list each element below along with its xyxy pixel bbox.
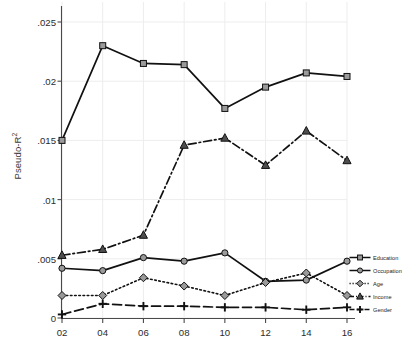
x-tick-label: 10 — [220, 327, 231, 338]
legend-label: Age — [373, 281, 383, 287]
x-tick-label: 16 — [342, 327, 353, 338]
legend-marker-diamond-icon — [349, 278, 371, 289]
y-axis-title: Pseudo-R2 — [11, 101, 23, 211]
x-tick-label: 06 — [138, 327, 149, 338]
x-tick-label: 08 — [179, 327, 190, 338]
plot-area — [62, 22, 347, 318]
legend-marker-triangle-icon — [349, 291, 371, 302]
legend-label: Gender — [373, 307, 392, 313]
legend-item-age[interactable]: Age — [349, 278, 415, 289]
legend-label: Income — [373, 294, 392, 300]
chart-canvas — [62, 22, 347, 318]
y-axis-title-text: Pseudo-R — [12, 137, 23, 180]
series-income — [58, 127, 351, 259]
y-tick-label: .025 — [8, 17, 56, 28]
legend-label: Occupation — [373, 268, 402, 274]
legend-marker-plus-icon — [349, 304, 371, 315]
legend-item-occupation[interactable]: Occupation — [349, 265, 415, 276]
x-tick-label: 12 — [260, 327, 271, 338]
chart-root: Pseudo-R2 0.005.01.015.02.025 0204060810… — [0, 0, 416, 357]
x-tick-label: 14 — [301, 327, 312, 338]
x-tick-label: 02 — [57, 327, 68, 338]
legend-item-income[interactable]: Income — [349, 291, 415, 302]
y-axis-title-exponent: 2 — [11, 133, 18, 137]
series-gender — [58, 300, 351, 319]
x-tick-label: 04 — [97, 327, 108, 338]
legend-item-education[interactable]: Education — [349, 252, 415, 263]
y-tick-label: 0 — [8, 313, 56, 324]
y-tick-label: .005 — [8, 253, 56, 264]
legend-item-gender[interactable]: Gender — [349, 304, 415, 315]
legend-marker-circle-icon — [349, 265, 371, 276]
y-tick-label: .02 — [8, 76, 56, 87]
chart-legend: EducationOccupationAgeIncomeGender — [349, 252, 415, 315]
legend-marker-square-icon — [349, 252, 371, 263]
legend-label: Education — [373, 255, 398, 261]
